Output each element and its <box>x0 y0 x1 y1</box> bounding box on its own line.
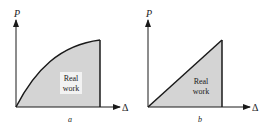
x-axis-label-b: Δ <box>252 102 259 113</box>
y-axis-label-a: P <box>13 8 20 19</box>
region-label-a-line1: Real <box>64 74 79 83</box>
x-axis-label-a: Δ <box>122 102 129 113</box>
region-label-a-line2: work <box>63 84 79 93</box>
diagram-b: P Δ Real work b <box>145 8 259 124</box>
region-label-b-line2: work <box>193 87 209 96</box>
diagram-canvas: P Δ Real work a P Δ Real work b <box>0 0 270 126</box>
region-label-b-line1: Real <box>194 77 209 86</box>
real-work-area-a <box>16 40 100 107</box>
diagram-a: P Δ Real work a <box>13 8 129 124</box>
caption-a: a <box>68 115 72 124</box>
caption-b: b <box>198 115 202 124</box>
y-axis-label-b: P <box>145 8 152 19</box>
